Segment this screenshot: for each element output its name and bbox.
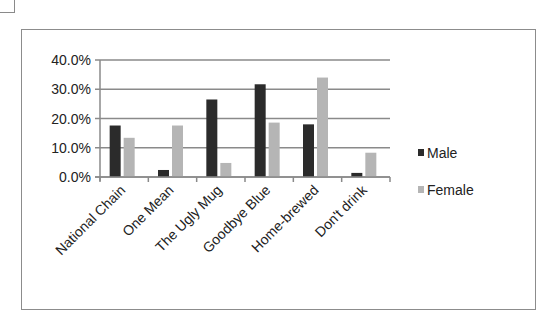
- x-category-label: Don't drink: [312, 181, 371, 240]
- bars: [110, 78, 377, 177]
- y-tick-label: 20.0%: [51, 111, 91, 127]
- bar-male: [110, 126, 121, 177]
- x-axis: National ChainOne MeanThe Ugly MugGoodby…: [52, 177, 390, 258]
- legend-label-female: Female: [427, 182, 474, 198]
- bar-female: [220, 163, 231, 177]
- bar-chart: 0.0%10.0%20.0%30.0%40.0% National ChainO…: [0, 0, 554, 327]
- legend-swatch-female: [418, 186, 424, 193]
- bar-female: [317, 78, 328, 177]
- bar-male: [255, 84, 266, 177]
- bar-female: [269, 123, 280, 177]
- legend: Male Female: [418, 145, 474, 198]
- bar-male: [303, 124, 314, 177]
- bar-female: [124, 138, 135, 177]
- y-tick-label: 0.0%: [59, 169, 91, 185]
- gridlines: [95, 60, 390, 177]
- bar-female: [172, 126, 183, 177]
- y-axis: 0.0%10.0%20.0%30.0%40.0%: [51, 52, 100, 185]
- bar-female: [365, 153, 376, 177]
- y-tick-label: 30.0%: [51, 81, 91, 97]
- x-category-label: National Chain: [52, 182, 128, 258]
- legend-swatch-male: [418, 149, 424, 156]
- y-tick-label: 40.0%: [51, 52, 91, 68]
- bar-male: [206, 99, 217, 177]
- y-tick-label: 10.0%: [51, 140, 91, 156]
- legend-label-male: Male: [427, 145, 458, 161]
- bar-male: [158, 170, 169, 177]
